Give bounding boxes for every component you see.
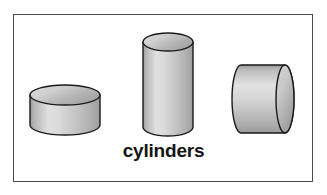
flat-disc-cylinder-top-face bbox=[30, 85, 100, 105]
horizontal-cylinder-right-face bbox=[276, 65, 294, 133]
tall-cylinder-body bbox=[143, 42, 193, 136]
tall-cylinder-top-face bbox=[143, 33, 193, 51]
cylinders-illustration bbox=[0, 0, 327, 195]
tall-cylinder bbox=[143, 33, 193, 136]
shape-label: cylinders bbox=[0, 140, 327, 162]
horizontal-cylinder bbox=[232, 65, 294, 133]
flat-disc-cylinder bbox=[30, 85, 100, 135]
figure-root: cylinders bbox=[0, 0, 327, 195]
